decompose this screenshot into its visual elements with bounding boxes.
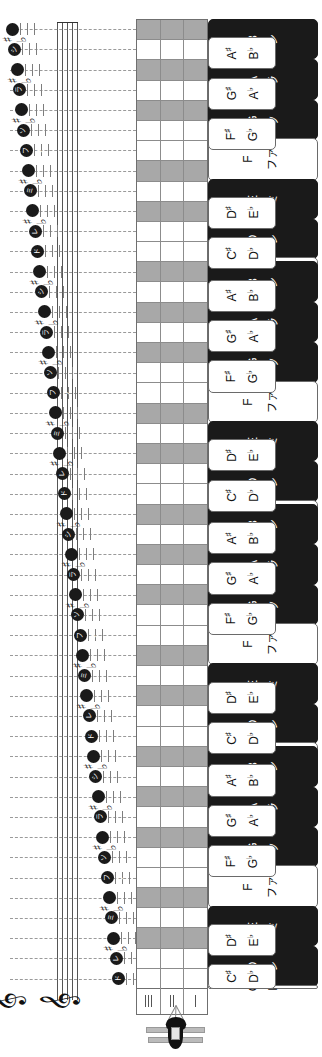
grid-cell[interactable] [184, 807, 207, 826]
piano-key-g-sharp[interactable]: G♯A♭ [208, 562, 276, 594]
grid-cell[interactable] [137, 383, 161, 402]
grid-cell[interactable] [137, 424, 161, 443]
grid-cell[interactable] [137, 81, 161, 100]
grid-cell[interactable] [161, 20, 185, 39]
grid-cell[interactable] [161, 706, 185, 725]
grid-cell[interactable] [184, 424, 207, 443]
grid-cell[interactable] [161, 848, 185, 867]
grid-cell[interactable] [161, 141, 185, 160]
grid-cell[interactable] [137, 282, 161, 301]
grid-cell[interactable] [161, 565, 185, 584]
grid-cell[interactable] [184, 605, 207, 624]
grid-cell[interactable] [184, 828, 207, 847]
grid-cell[interactable] [137, 404, 161, 423]
grid-cell[interactable] [137, 20, 161, 39]
grid-cell[interactable] [184, 202, 207, 221]
grid-cell[interactable] [137, 565, 161, 584]
grid-cell[interactable] [184, 908, 207, 927]
grid-cell[interactable] [184, 868, 207, 887]
grid-cell[interactable] [161, 727, 185, 746]
grid-cell[interactable] [184, 969, 207, 989]
piano-key-f-sharp[interactable]: F♯G♭ [208, 603, 276, 635]
grid-cell[interactable] [161, 404, 185, 423]
grid-cell[interactable] [161, 101, 185, 120]
grid-cell[interactable] [137, 727, 161, 746]
grid-cell[interactable] [184, 40, 207, 59]
grid-cell[interactable] [137, 262, 161, 281]
grid-cell[interactable] [137, 161, 161, 180]
grid-cell[interactable] [184, 101, 207, 120]
grid-cell[interactable] [161, 262, 185, 281]
grid-cell[interactable] [161, 807, 185, 826]
grid-cell[interactable] [184, 565, 207, 584]
piano-key-f-sharp[interactable]: F♯G♭ [208, 118, 276, 150]
grid-cell[interactable] [137, 646, 161, 665]
grid-cell[interactable] [161, 928, 185, 947]
grid-cell[interactable] [161, 686, 185, 705]
grid-cell[interactable] [161, 444, 185, 463]
grid-cell[interactable] [161, 81, 185, 100]
grid-cell[interactable] [161, 605, 185, 624]
grid-cell[interactable] [161, 949, 185, 968]
grid-cell[interactable] [137, 585, 161, 604]
grid-cell[interactable] [161, 182, 185, 201]
grid-cell[interactable] [137, 525, 161, 544]
grid-cell[interactable] [137, 242, 161, 261]
piano-key-a-sharp[interactable]: A♯B♭ [208, 280, 276, 312]
grid-cell[interactable] [184, 121, 207, 140]
piano-key-a-sharp[interactable]: A♯B♭ [208, 522, 276, 554]
grid-cell[interactable] [184, 182, 207, 201]
grid-cell[interactable] [137, 323, 161, 342]
grid-cell[interactable] [161, 626, 185, 645]
grid-cell[interactable] [184, 282, 207, 301]
grid-cell[interactable] [137, 182, 161, 201]
grid-cell[interactable] [161, 60, 185, 79]
piano-key-f-sharp[interactable]: F♯G♭ [208, 845, 276, 877]
grid-cell[interactable] [161, 969, 185, 989]
piano-key-g-sharp[interactable]: G♯A♭ [208, 320, 276, 352]
grid-cell[interactable] [161, 787, 185, 806]
grid-cell[interactable] [184, 323, 207, 342]
grid-cell[interactable] [137, 141, 161, 160]
piano-key-a-sharp[interactable]: A♯B♭ [208, 37, 276, 69]
piano-key-d-sharp[interactable]: D♯E♭ [208, 197, 276, 229]
grid-cell[interactable] [184, 363, 207, 382]
grid-cell[interactable] [137, 363, 161, 382]
grid-cell[interactable] [184, 505, 207, 524]
grid-cell[interactable] [137, 505, 161, 524]
grid-cell[interactable] [137, 767, 161, 786]
grid-cell[interactable] [161, 383, 185, 402]
grid-cell[interactable] [137, 101, 161, 120]
grid-cell[interactable] [184, 404, 207, 423]
grid-cell[interactable] [184, 242, 207, 261]
piano-key-f-sharp[interactable]: F♯G♭ [208, 360, 276, 392]
grid-cell[interactable] [184, 525, 207, 544]
grid-cell[interactable] [137, 969, 161, 989]
grid-cell[interactable] [161, 888, 185, 907]
grid-cell[interactable] [161, 646, 185, 665]
grid-cell[interactable] [137, 222, 161, 241]
grid-cell[interactable] [137, 868, 161, 887]
grid-cell[interactable] [137, 787, 161, 806]
grid-cell[interactable] [161, 868, 185, 887]
grid-cell[interactable] [137, 908, 161, 927]
grid-cell[interactable] [161, 585, 185, 604]
grid-cell[interactable] [161, 545, 185, 564]
grid-cell[interactable] [137, 121, 161, 140]
grid-cell[interactable] [161, 666, 185, 685]
grid-cell[interactable] [184, 141, 207, 160]
grid-cell[interactable] [184, 383, 207, 402]
piano-key-d-sharp[interactable]: D♯E♭ [208, 682, 276, 714]
grid-cell[interactable] [184, 727, 207, 746]
grid-cell[interactable] [184, 706, 207, 725]
grid-cell[interactable] [184, 666, 207, 685]
grid-cell[interactable] [137, 747, 161, 766]
grid-cell[interactable] [137, 686, 161, 705]
grid-cell[interactable] [137, 545, 161, 564]
grid-cell[interactable] [184, 747, 207, 766]
grid-cell[interactable] [161, 40, 185, 59]
grid-cell[interactable] [137, 60, 161, 79]
grid-cell[interactable] [137, 666, 161, 685]
grid-cell[interactable] [137, 828, 161, 847]
piano-key-a-sharp[interactable]: A♯B♭ [208, 764, 276, 796]
